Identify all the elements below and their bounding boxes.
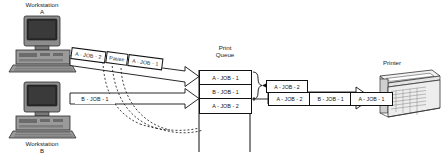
output-stream-item-0: A - JOB - 2 (268, 92, 311, 106)
queue-to-printer-connector (250, 97, 268, 101)
stream-b-job-0: B - JOB - 1 (75, 94, 115, 104)
workstation-a-label-line2: A (4, 9, 80, 16)
workstation-b-label-line2: B (4, 148, 80, 155)
queue-item-2[interactable]: A - JOB - 2 (199, 98, 252, 114)
output-stream-item-1: B - JOB - 1 (309, 92, 352, 106)
workstation-a-icon (9, 16, 76, 72)
queue-brace (253, 72, 262, 99)
print-queue-label-line2: Queue (197, 51, 253, 59)
printer-label: Printer (372, 60, 412, 67)
output-stream-item-2: A - JOB - 1 (350, 92, 393, 106)
diagram-canvas: Workstation A Workstation B A - JOB - 2 … (0, 0, 444, 168)
workstation-b-icon (9, 82, 76, 138)
